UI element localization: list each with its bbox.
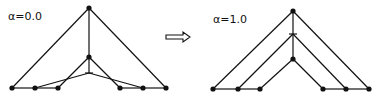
node-dot: [86, 54, 91, 59]
edge: [58, 57, 89, 88]
edge: [89, 73, 143, 88]
edge: [293, 34, 346, 89]
edge: [89, 57, 120, 88]
node-dot: [257, 86, 262, 91]
edge: [293, 59, 323, 89]
edge: [238, 34, 293, 89]
node-dot: [32, 85, 37, 90]
alpha-label: α=1.0: [213, 13, 247, 26]
edge: [35, 73, 89, 88]
node-dot: [366, 86, 371, 91]
diagram-alpha-1: α=1.0: [210, 8, 371, 91]
double-arrow-shape: [166, 32, 190, 42]
node-dot: [117, 85, 122, 90]
alpha-label: α=0.0: [8, 10, 42, 23]
diagram-alpha-0: α=0.0: [8, 5, 169, 90]
graph-transition-diagram: α=0.0 α=1.0: [0, 0, 380, 102]
node-dot: [9, 85, 14, 90]
node-dot: [343, 86, 348, 91]
node-dot: [210, 86, 215, 91]
node-dot: [290, 8, 295, 13]
node-dot: [235, 86, 240, 91]
node-dot: [140, 85, 145, 90]
edge: [260, 59, 293, 89]
node-dot: [320, 86, 325, 91]
transition-arrow-icon: [166, 32, 190, 42]
node-dot: [86, 5, 91, 10]
edge: [293, 11, 369, 89]
node-dot: [290, 56, 295, 61]
node-dot: [163, 85, 168, 90]
node-dot: [55, 85, 60, 90]
